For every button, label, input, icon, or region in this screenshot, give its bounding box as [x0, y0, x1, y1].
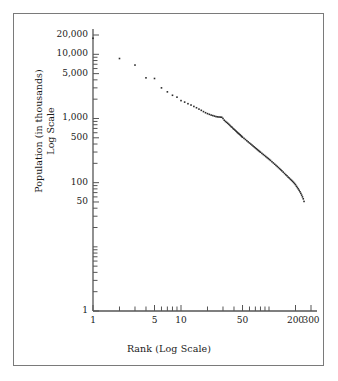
data-point — [245, 139, 247, 141]
data-point — [299, 191, 301, 193]
data-point — [187, 103, 189, 105]
data-point — [134, 64, 136, 66]
y-tick-label: 1 — [82, 305, 88, 315]
data-point — [270, 160, 272, 162]
x-tick-label: 300 — [291, 315, 331, 325]
data-point — [161, 87, 163, 89]
y-tick-label: 100 — [71, 177, 88, 187]
y-axis-title-line-1: Population (in thousands) — [33, 31, 45, 231]
y-tick-label: 50 — [77, 196, 88, 206]
data-point — [222, 118, 224, 120]
y-tick-label: 500 — [71, 132, 88, 142]
x-axis-tick-marks — [93, 305, 311, 311]
y-axis-title: Population (in thousands) Log Scale — [33, 31, 59, 231]
data-point — [184, 101, 186, 103]
figure-canvas: 1501005001,0005,00010,00020,000 15105020… — [0, 0, 338, 381]
data-point — [282, 171, 284, 173]
data-point — [196, 107, 198, 109]
data-point — [215, 116, 217, 118]
x-tick-label: 50 — [223, 315, 263, 325]
data-point — [298, 190, 300, 192]
data-point — [145, 77, 147, 79]
data-point — [300, 193, 302, 195]
data-point — [242, 136, 244, 138]
x-tick-label: 1 — [73, 315, 113, 325]
y-tick-label: 10,000 — [57, 48, 89, 58]
data-point — [214, 115, 216, 117]
data-point — [212, 115, 214, 117]
data-point — [297, 188, 299, 190]
data-point — [205, 112, 207, 114]
x-tick-label: 10 — [161, 315, 201, 325]
y-tick-label: 1,000 — [62, 112, 88, 122]
data-point — [193, 106, 195, 108]
data-point — [210, 114, 212, 116]
data-point — [217, 116, 219, 118]
data-point — [303, 201, 305, 203]
data-point — [172, 94, 174, 96]
data-point — [180, 100, 182, 102]
data-point — [209, 114, 211, 116]
y-axis-tick-marks — [93, 35, 99, 311]
data-point — [119, 58, 121, 60]
y-axis-title-line-2: Log Scale — [45, 31, 57, 231]
data-point — [190, 104, 192, 106]
data-point — [207, 113, 209, 115]
data-point — [260, 151, 262, 153]
x-axis-title: Rank (Log Scale) — [0, 343, 338, 354]
data-point — [302, 196, 304, 198]
data-point — [218, 116, 220, 118]
data-point — [167, 91, 169, 93]
log-log-scatter-plot — [14, 14, 323, 365]
figure-frame-border: 1501005001,0005,00010,00020,000 15105020… — [13, 13, 324, 366]
data-point — [154, 78, 156, 80]
data-point — [203, 111, 205, 113]
data-point — [198, 108, 200, 110]
data-point — [243, 138, 245, 140]
axis-lines — [93, 29, 317, 311]
scatter-data-points — [92, 37, 305, 202]
data-point — [271, 161, 273, 163]
y-tick-label: 5,000 — [62, 68, 88, 78]
data-point — [302, 198, 304, 200]
y-tick-label: 20,000 — [57, 29, 89, 39]
data-point — [301, 194, 303, 196]
data-point — [295, 184, 297, 186]
data-point — [200, 110, 202, 112]
data-point — [176, 96, 178, 98]
data-point — [92, 37, 94, 39]
